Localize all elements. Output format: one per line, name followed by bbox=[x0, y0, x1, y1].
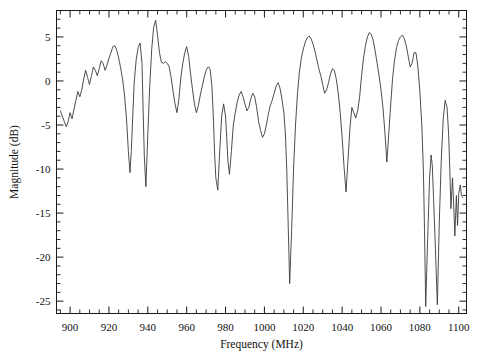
x-tick-label: 1060 bbox=[370, 321, 393, 333]
y-tick-label: -5 bbox=[41, 119, 51, 131]
x-tick-label: 920 bbox=[101, 321, 118, 333]
x-tick-label: 1000 bbox=[253, 321, 276, 333]
y-tick-label: -20 bbox=[36, 251, 51, 263]
x-tick-label: 980 bbox=[217, 321, 234, 333]
x-axis-tick-labels: 900920940960980100010201040106010801100 bbox=[62, 321, 470, 333]
y-axis-label: Magnitude (dB) bbox=[8, 125, 21, 199]
magnitude-trace bbox=[60, 20, 462, 306]
y-tick-label: -15 bbox=[36, 207, 51, 219]
x-tick-label: 1020 bbox=[292, 321, 315, 333]
x-tick-label: 1100 bbox=[448, 321, 470, 333]
chart-page: 900920940960980100010201040106010801100 … bbox=[0, 0, 479, 351]
x-axis-label: Frequency (MHz) bbox=[220, 338, 303, 351]
x-axis-ticks bbox=[60, 11, 458, 314]
x-tick-label: 900 bbox=[62, 321, 79, 333]
y-tick-label: -10 bbox=[36, 163, 51, 175]
y-axis-tick-labels: 50-5-10-15-20-25 bbox=[36, 31, 51, 307]
magnitude-frequency-chart: 900920940960980100010201040106010801100 … bbox=[0, 0, 479, 351]
y-tick-label: 0 bbox=[45, 75, 51, 87]
x-tick-label: 1040 bbox=[331, 321, 354, 333]
x-tick-label: 1080 bbox=[409, 321, 432, 333]
x-tick-label: 940 bbox=[140, 321, 157, 333]
y-tick-label: -25 bbox=[36, 295, 51, 307]
x-tick-label: 960 bbox=[178, 321, 195, 333]
y-tick-label: 5 bbox=[45, 31, 51, 43]
